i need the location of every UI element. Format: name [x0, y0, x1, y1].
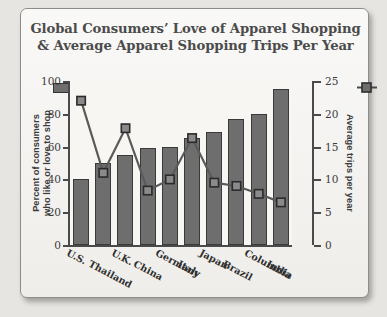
line-marker-germany [166, 175, 174, 183]
line-marker-japan [210, 178, 218, 186]
line-marker-columbia [255, 190, 263, 198]
left-axis-tick-label: 80 [48, 108, 61, 120]
line-marker-italy [188, 134, 196, 142]
line-marker-thailand [99, 169, 107, 177]
left-axis-title-line1: Percent of consumers [31, 114, 41, 212]
left-axis-title-line2: who like or love to shop [42, 110, 52, 216]
x-label-us: U.S. [65, 247, 88, 266]
left-axis-tick [63, 81, 70, 83]
chart-screenshot: Global Consumers’ Love of Apparel Shoppi… [0, 0, 387, 317]
chart-title-line1: Global Consumers’ Love of Apparel Shoppi… [30, 21, 360, 36]
right-axis-tick [314, 179, 321, 181]
left-axis-tick [63, 179, 70, 181]
line-marker-india [277, 198, 285, 206]
chart-title: Global Consumers’ Love of Apparel Shoppi… [21, 20, 370, 54]
chart-title-line2: & Average Apparel Shopping Trips Per Yea… [21, 37, 370, 54]
line-series [70, 81, 292, 245]
right-axis-tick-label: 25 [325, 75, 338, 87]
left-axis-tick-label: 60 [48, 141, 61, 153]
plot-area: 020406080100 [68, 81, 292, 247]
right-axis-tick [314, 147, 321, 149]
right-axis-tick [314, 245, 321, 247]
chart-card: Global Consumers’ Love of Apparel Shoppi… [20, 8, 369, 298]
right-axis-line: 0510152025 [312, 81, 314, 245]
right-axis-tick-label: 5 [325, 206, 332, 218]
right-axis-tick-label: 10 [325, 173, 338, 185]
line-marker-china [144, 186, 152, 194]
line-marker-uk [121, 124, 129, 132]
right-axis-tick [314, 81, 321, 83]
left-axis-tick [63, 147, 70, 149]
left-axis-tick-label: 40 [48, 173, 61, 185]
x-axis-labels: U.S.ThailandU.K.ChinaGermanyItalyJapanBr… [68, 247, 290, 305]
line-marker-brazil [232, 182, 240, 190]
right-axis-title-text: Average trips per year [345, 114, 355, 212]
left-axis-tick [63, 212, 70, 214]
x-label-brazil: Brazil [220, 258, 254, 283]
left-axis-tick-label: 20 [48, 206, 61, 218]
left-axis-title: Percent of consumers who like or love to… [29, 81, 55, 245]
right-axis-tick-label: 0 [325, 239, 332, 251]
x-label-uk: U.K. [109, 247, 134, 267]
line-marker-us [77, 96, 85, 104]
left-axis-tick [63, 114, 70, 116]
line-path [81, 101, 281, 203]
x-label-china: China [132, 258, 165, 282]
right-axis-tick [314, 212, 321, 214]
right-axis-title: Average trips per year [339, 81, 361, 245]
left-axis-tick-label: 100 [41, 75, 61, 87]
right-axis-tick-label: 20 [325, 108, 338, 120]
left-axis-tick-label: 0 [54, 239, 61, 251]
right-axis-tick [314, 114, 321, 116]
right-axis-tick-label: 15 [325, 141, 338, 153]
